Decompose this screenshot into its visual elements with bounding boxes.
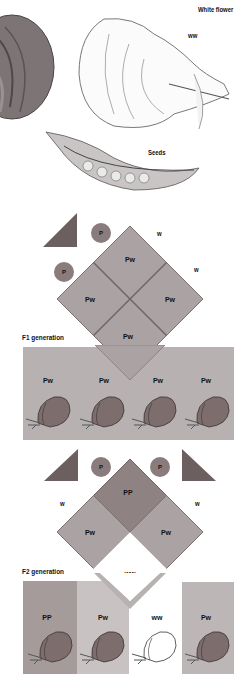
seeds-label: Seeds xyxy=(148,149,166,156)
f2-generation-label: F2 generation xyxy=(22,567,64,576)
f2-plant-label: Pw xyxy=(98,614,108,621)
punnett2-cell-pw-right: Pw xyxy=(161,529,171,536)
f2-plant-label: Pw xyxy=(201,614,211,621)
f2-connector xyxy=(94,573,166,617)
punnett2-cell-pw-left: Pw xyxy=(85,529,95,536)
punnett1-cell-top: Pw xyxy=(125,256,135,263)
purple-flower-icon xyxy=(185,627,231,671)
punnett1-cell-left: Pw xyxy=(85,296,95,303)
punnett1-cell-right: Pw xyxy=(165,296,175,303)
f1-plant-label: Pw xyxy=(99,377,109,384)
white-flower-genotype: ww xyxy=(188,32,197,39)
white-flower-illustration xyxy=(74,14,234,132)
f1-plant-label: Pw xyxy=(153,377,163,384)
f2-plant-label: ww xyxy=(152,614,163,621)
f2-plant-label: PP xyxy=(42,614,51,621)
purple-flower-illustration xyxy=(0,12,60,122)
purple-flower-icon xyxy=(80,627,126,671)
punnett1-cell-bottom: Pw xyxy=(123,333,133,340)
f1-plant-label: Pw xyxy=(43,377,53,384)
purple-flower-icon xyxy=(185,393,231,435)
f1-plant-label: Pw xyxy=(201,377,211,384)
purple-flower-icon xyxy=(26,393,72,435)
seed-pod-illustration xyxy=(44,128,204,193)
punnett2-cell-pp: PP xyxy=(123,489,132,496)
purple-flower-icon xyxy=(132,393,178,435)
purple-flower-icon xyxy=(28,627,74,671)
white-flower-icon xyxy=(132,627,178,671)
purple-flower-icon xyxy=(80,393,126,435)
f1-generation-label: F1 generation xyxy=(22,333,64,342)
white-flower-label: White flower xyxy=(198,6,233,13)
